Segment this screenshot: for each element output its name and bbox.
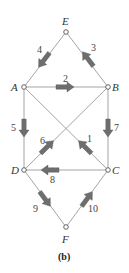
arrow-label-9: 9 (33, 203, 38, 214)
node-A (22, 85, 27, 90)
node-F (64, 225, 69, 230)
node-D (22, 168, 27, 173)
directed-graph-diagram: 4 3 2 5 7 6 1 8 9 10 E A B D C F (b) (0, 0, 129, 273)
arrow-label-2: 2 (63, 73, 68, 84)
figure-caption: (b) (58, 251, 70, 263)
arrow-7-icon (103, 119, 113, 137)
node-label-A: A (10, 81, 18, 93)
arrow-label-1: 1 (87, 133, 92, 144)
arrow-label-6: 6 (40, 135, 45, 146)
arrow-label-7: 7 (114, 122, 119, 133)
node-E (64, 30, 69, 35)
node-label-E: E (61, 15, 69, 27)
nodes (22, 30, 111, 230)
arrow-label-8: 8 (50, 174, 55, 185)
node-B (106, 85, 111, 90)
arrow-label-4: 4 (37, 44, 42, 55)
arrow-5-icon (19, 119, 29, 137)
arrow-label-10: 10 (88, 203, 98, 214)
node-label-B: B (112, 81, 119, 93)
node-label-D: D (10, 164, 19, 176)
node-C (106, 168, 111, 173)
arrow-label-5: 5 (11, 122, 16, 133)
node-label-C: C (112, 164, 120, 176)
node-label-F: F (61, 233, 69, 245)
arrow-label-3: 3 (91, 42, 96, 53)
arrow-9-icon (36, 189, 55, 209)
edges (24, 32, 108, 227)
